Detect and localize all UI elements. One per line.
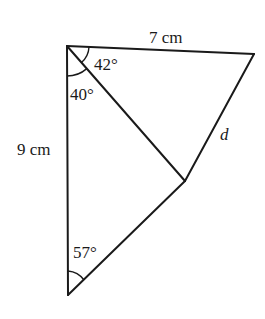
side-cd [68, 181, 185, 295]
angle-arc-42 [82, 47, 90, 63]
diagonal-ac [67, 46, 185, 181]
label-angle-bottom: 57° [73, 244, 97, 261]
side-ab [67, 46, 254, 54]
angle-arc-40 [67, 69, 87, 76]
side-bc [185, 54, 254, 181]
label-angle-upper-left: 40° [70, 86, 94, 103]
label-angle-top: 42° [94, 56, 118, 73]
angle-arc-57 [68, 271, 84, 280]
diagram-lines [0, 0, 265, 319]
label-side-right: d [220, 126, 229, 143]
geometry-diagram: 7 cm 9 cm d 42° 40° 57° [0, 0, 265, 319]
side-ad [67, 46, 68, 295]
label-side-top: 7 cm [149, 29, 183, 46]
label-side-left: 9 cm [17, 141, 51, 158]
